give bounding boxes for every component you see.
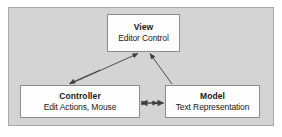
connector-model-to-view xyxy=(150,54,172,85)
node-controller[interactable]: Controller Edit Actions, Mouse xyxy=(20,85,140,118)
node-view-title: View xyxy=(134,22,154,33)
node-model[interactable]: Model Text Representation xyxy=(165,85,260,118)
node-model-title: Model xyxy=(200,91,225,102)
node-controller-title: Controller xyxy=(59,91,101,102)
connector-controller-to-view xyxy=(70,54,139,85)
node-view[interactable]: View Editor Control xyxy=(107,14,180,52)
diagram-canvas: View Editor Control Controller Edit Acti… xyxy=(0,0,282,137)
node-view-subtitle: Editor Control xyxy=(118,33,169,44)
node-controller-subtitle: Edit Actions, Mouse xyxy=(44,102,117,113)
connector-controller-model xyxy=(141,100,164,106)
node-model-subtitle: Text Representation xyxy=(176,102,250,113)
